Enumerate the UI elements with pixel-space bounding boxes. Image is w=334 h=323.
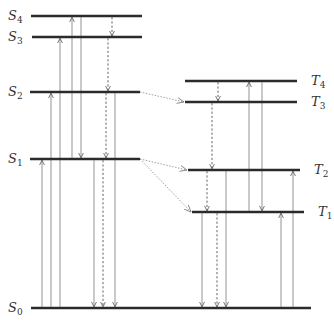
level-label-s2: S2 [8, 84, 23, 101]
level-label-t4: T4 [311, 73, 326, 90]
isc-s2-to-t3-arrow [140, 92, 184, 102]
level-labels: S4S3S2S1S0T4T3T2T1 [8, 8, 332, 317]
intersystem-crossing-arrows [140, 92, 191, 212]
isc-s1-to-t1-arrow [140, 159, 191, 212]
level-label-s4: S4 [8, 8, 23, 25]
level-label-t1: T1 [318, 204, 332, 221]
level-label-t2: T2 [314, 162, 328, 179]
level-label-s0: S0 [8, 300, 23, 317]
level-label-s3: S3 [8, 29, 23, 46]
diagram-canvas: S4S3S2S1S0T4T3T2T1 [0, 0, 334, 323]
transition-arrows [42, 17, 293, 307]
level-label-t3: T3 [311, 94, 326, 111]
jablonski-diagram: S4S3S2S1S0T4T3T2T1 [0, 0, 334, 323]
isc-s1-to-t2-arrow [140, 159, 187, 170]
level-label-s1: S1 [8, 151, 23, 168]
